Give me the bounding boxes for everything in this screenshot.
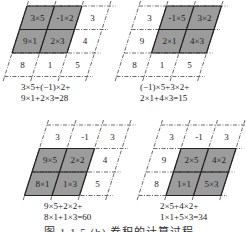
parallelogram-grids: 3×5-1×239×12×348153-1×53×292×14×38153-13…	[0, 0, 246, 232]
cell-value: -1×5	[168, 13, 186, 23]
grid-bottom-left: 3-139×52×248×11×35	[23, 120, 136, 201]
formula-line: 1×1+5×3=34	[160, 212, 207, 223]
cell-value: 3	[90, 13, 95, 23]
formula-top-right: (−1)×5+3×2+ 2×1+4×3=15	[140, 82, 189, 104]
formula-top-left: 3×5+(−1)×2+ 9×1+2×3=28	[21, 82, 70, 104]
cell-value: 9×5	[43, 155, 58, 165]
cell-value: 9×1	[23, 36, 37, 46]
cell-value: 4×2	[212, 155, 226, 165]
formula-bottom-left: 9×5+2×2+ 8×1+1×3=60	[44, 201, 91, 223]
cell-value: 2×3	[50, 36, 65, 46]
cell-value: 1×1	[177, 179, 191, 189]
formula-line: 9×5+2×2+	[44, 201, 91, 212]
cell-value: 4	[103, 155, 108, 165]
cell-value: 9	[162, 155, 167, 165]
formula-bottom-right: 2×5+4×2+ 1×1+5×3=34	[160, 201, 207, 223]
cell-value: 8	[20, 60, 25, 70]
cell-value: 1	[160, 60, 165, 70]
formula-line: (−1)×5+3×2+	[140, 82, 189, 93]
formula-line: 2×1+4×3=15	[140, 93, 189, 104]
cell-value: 5	[187, 60, 192, 70]
cell-value: 1×3	[63, 179, 78, 189]
cell-value: 8	[132, 60, 137, 70]
cell-value: 4×3	[190, 36, 205, 46]
cell-value: 2×2	[70, 155, 84, 165]
formula-line: 8×1+1×3=60	[44, 212, 91, 223]
cell-value: 3	[169, 132, 174, 142]
grid-top-left: 3×5-1×239×12×34815	[3, 1, 116, 82]
cell-value: 3×2	[197, 13, 211, 23]
cell-value: 3	[224, 132, 229, 142]
cell-value: 5	[75, 60, 80, 70]
formula-line: 2×5+4×2+	[160, 201, 207, 212]
cell-value: 5	[95, 179, 100, 189]
grid-top-right: 3-1×53×292×14×3815	[115, 1, 228, 82]
formula-line: 9×1+2×3=28	[21, 93, 70, 104]
cell-value: 9	[140, 36, 145, 46]
cell-value: 3×5	[30, 13, 45, 23]
cell-value: -1	[81, 132, 89, 142]
cell-value: 4	[83, 36, 88, 46]
convolution-diagram: 3×5-1×239×12×348153-1×53×292×14×38153-13…	[0, 0, 246, 232]
cell-value: 5×3	[204, 179, 219, 189]
cell-value: 3	[110, 132, 115, 142]
cell-value: 3	[55, 132, 60, 142]
grid-bottom-right: 3-1392×54×281×15×3	[137, 120, 246, 201]
figure-caption: 图 1.1.5 (b) 卷积的计算过程	[44, 223, 194, 232]
cell-value: 8×1	[35, 179, 49, 189]
cell-value: 3	[147, 13, 152, 23]
cell-value: 1	[48, 60, 53, 70]
cell-value: 2×1	[162, 36, 176, 46]
cell-value: 2×5	[184, 155, 199, 165]
formula-line: 3×5+(−1)×2+	[21, 82, 70, 93]
cell-value: -1×2	[56, 13, 73, 23]
cell-value: 8	[154, 179, 159, 189]
cell-value: -1	[195, 132, 203, 142]
